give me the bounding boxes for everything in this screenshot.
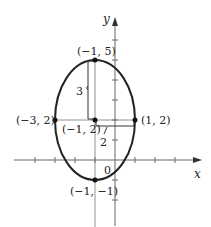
point-center [93,118,98,123]
vertical-measure-bracket [87,61,94,119]
y-axis-label: y [102,12,110,26]
y-axis-arrow-icon [112,17,118,26]
x-axis-arrow-icon [193,157,202,163]
label-top-point: (−1, 5) [77,45,116,58]
label-vertical-length: 3 [76,85,83,98]
label-bottom-point: (−1, −1) [70,185,118,198]
ellipse-diagram: y x 0 (−1, 5) (−3, 2) (−1, 2) (1, 2) (−1… [0,0,211,227]
label-right-point: (1, 2) [141,114,171,127]
point-bottom [93,178,98,183]
point-top [93,58,98,63]
label-left-point: (−3, 2) [16,114,55,127]
label-center-point: (−1, 2) [62,123,101,136]
x-axis [14,157,202,163]
origin-label: 0 [104,164,111,177]
label-horizontal-length: 2 [100,136,107,149]
point-right [133,118,138,123]
x-axis-label: x [194,167,201,181]
